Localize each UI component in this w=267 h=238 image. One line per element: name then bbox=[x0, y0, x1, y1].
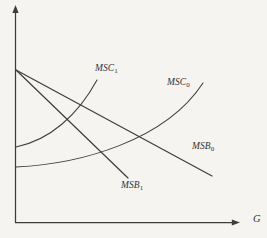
curve-label-msc0: MSC0 bbox=[167, 77, 190, 89]
y-axis-arrow-icon bbox=[12, 5, 18, 13]
curve-label-msb0-text: MSB bbox=[192, 141, 211, 151]
economics-diagram: MSC1 MSC0 MSB0 MSB1 G bbox=[0, 0, 267, 238]
curve-label-msc0-text: MSC bbox=[167, 77, 186, 87]
diagram-canvas bbox=[0, 0, 267, 238]
curve-label-msb1-text: MSB bbox=[121, 180, 140, 190]
curve-label-msc1-sub: 1 bbox=[114, 67, 118, 75]
curve-label-msc1: MSC1 bbox=[95, 63, 118, 75]
x-axis-label: G bbox=[253, 213, 261, 224]
curve-label-msc1-text: MSC bbox=[95, 63, 114, 73]
x-axis-arrow-icon bbox=[232, 219, 240, 225]
curve-label-msb1-sub: 1 bbox=[140, 184, 144, 192]
curve-msc0 bbox=[16, 83, 203, 167]
curve-label-msb0-sub: 0 bbox=[211, 145, 215, 153]
curve-label-msb1: MSB1 bbox=[121, 180, 143, 192]
curve-label-msb0: MSB0 bbox=[192, 141, 214, 153]
curve-label-msc0-sub: 0 bbox=[186, 81, 190, 89]
curve-msb1 bbox=[16, 70, 128, 178]
